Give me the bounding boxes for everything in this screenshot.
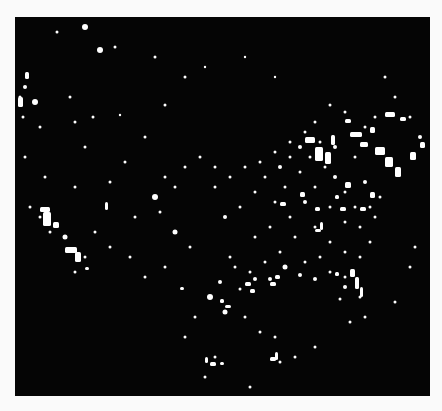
city-light-dot [223, 215, 227, 219]
city-light-dot [239, 206, 242, 209]
night-lights-image [15, 17, 430, 396]
city-light-dot [374, 216, 377, 219]
city-light-dot [294, 236, 297, 239]
metro-light-cluster [345, 119, 351, 123]
city-light-dot [234, 266, 237, 269]
city-light-dot [329, 241, 332, 244]
city-light-dot [254, 191, 257, 194]
city-light-dot [394, 96, 397, 99]
city-light-dot [283, 265, 288, 270]
city-light-dot [84, 256, 87, 259]
city-light-dot [309, 156, 312, 159]
city-light-dot [379, 196, 382, 199]
metro-light-cluster [395, 167, 401, 177]
city-light-dot [418, 135, 422, 139]
city-light-dot [329, 271, 332, 274]
city-light-dot [164, 104, 167, 107]
city-light-dot [144, 136, 147, 139]
city-light-dot [32, 99, 38, 105]
metro-light-cluster [275, 275, 280, 279]
city-light-dot [369, 206, 372, 209]
city-light-dot [364, 126, 367, 129]
city-light-dot [94, 231, 97, 234]
city-light-dot [164, 176, 167, 179]
city-light-dot [56, 31, 59, 34]
city-light-dot [174, 186, 177, 189]
city-light-dot [394, 301, 397, 304]
city-light-dot [159, 211, 162, 214]
city-light-dot [344, 111, 347, 114]
city-light-dot [124, 161, 127, 164]
city-light-dot [184, 166, 187, 169]
city-light-dot [114, 46, 117, 49]
city-light-dot [339, 298, 342, 301]
metro-light-cluster [375, 147, 385, 155]
metro-light-cluster [105, 202, 108, 210]
metro-light-cluster [210, 362, 216, 366]
city-light-dot [84, 146, 87, 149]
metro-light-cluster [360, 142, 368, 147]
metro-light-cluster [280, 202, 286, 206]
city-light-dot [304, 131, 307, 134]
city-light-dot [274, 201, 277, 204]
metro-light-cluster [65, 247, 77, 253]
city-light-dot [269, 226, 272, 229]
city-light-dot [279, 251, 282, 254]
city-light-dot [44, 176, 47, 179]
city-light-dot [314, 346, 317, 349]
city-light-dot [74, 186, 77, 189]
city-light-dot [184, 76, 187, 79]
metro-light-cluster [250, 289, 255, 293]
city-light-dot [152, 194, 158, 200]
city-light-dot [274, 336, 277, 339]
city-light-dot [29, 206, 32, 209]
city-light-dot [359, 226, 362, 229]
city-light-dot [39, 216, 42, 219]
metro-light-cluster [320, 222, 323, 230]
metro-light-cluster [331, 135, 335, 145]
city-light-dot [229, 256, 232, 259]
city-light-dot [24, 156, 27, 159]
metro-light-cluster [220, 299, 224, 303]
city-light-dot [313, 277, 317, 281]
city-light-dot [69, 96, 72, 99]
city-light-dot [384, 76, 387, 79]
metro-light-cluster [270, 282, 276, 286]
city-light-dot [279, 361, 282, 364]
city-light-dot [239, 288, 242, 291]
metro-light-cluster [315, 229, 321, 232]
city-light-dot [264, 261, 267, 264]
city-light-dot [82, 24, 88, 30]
city-light-dot [343, 285, 347, 289]
city-light-dot [303, 200, 307, 204]
metro-light-cluster [360, 287, 363, 297]
city-light-dot [344, 276, 347, 279]
city-light-dot [173, 230, 178, 235]
city-light-dot [154, 56, 157, 59]
city-light-dot [109, 246, 112, 249]
city-light-dot [359, 256, 362, 259]
metro-light-cluster [385, 157, 393, 167]
metro-light-cluster [335, 195, 339, 199]
metro-light-cluster [305, 137, 315, 143]
city-light-dot [204, 66, 206, 68]
city-light-dot [344, 251, 347, 254]
metro-light-cluster [345, 182, 351, 188]
city-light-dot [49, 231, 52, 234]
city-lights-layer [15, 17, 430, 396]
metro-light-cluster [355, 277, 359, 289]
city-light-dot [254, 236, 257, 239]
metro-light-cluster [315, 207, 320, 211]
city-light-dot [244, 56, 246, 58]
city-light-dot [259, 331, 262, 334]
metro-light-cluster [350, 269, 355, 277]
city-light-dot [354, 156, 357, 159]
city-light-dot [363, 180, 367, 184]
metro-light-cluster [315, 147, 323, 161]
city-light-dot [409, 116, 412, 119]
city-light-dot [304, 261, 307, 264]
city-light-dot [74, 271, 77, 274]
city-light-dot [164, 266, 167, 269]
city-light-dot [194, 316, 197, 319]
city-light-dot [409, 266, 412, 269]
